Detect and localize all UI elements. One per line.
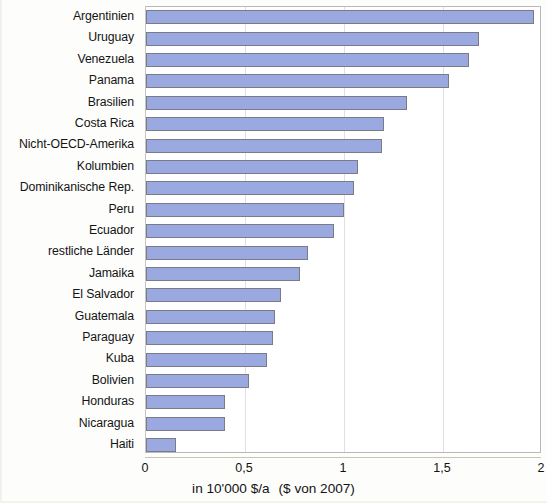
bar-row	[146, 307, 542, 328]
category-axis-labels: ArgentinienUruguayVenezuelaPanamaBrasili…	[0, 6, 140, 453]
bar	[146, 353, 267, 367]
category-label: Guatemala	[75, 306, 134, 327]
category-label: Kolumbien	[77, 156, 134, 177]
bar	[146, 160, 358, 174]
bar	[146, 395, 225, 409]
bar-row	[146, 221, 542, 242]
bar-row	[146, 135, 542, 156]
x-tick-label: 1,5	[433, 461, 450, 475]
category-label: Jamaika	[89, 263, 134, 284]
bar	[146, 53, 469, 67]
bar	[146, 32, 479, 46]
category-label: El Salvador	[72, 284, 134, 305]
bar-row	[146, 178, 542, 199]
bar	[146, 10, 534, 24]
category-label: Peru	[108, 199, 134, 220]
bar-row	[146, 285, 542, 306]
bar-row	[146, 435, 542, 456]
bar-row	[146, 200, 542, 221]
category-label: Bolivien	[92, 370, 134, 391]
bar	[146, 203, 344, 217]
plot-area	[145, 6, 541, 453]
category-label: Nicht-OECD-Amerika	[19, 134, 134, 155]
category-label: Costa Rica	[75, 113, 134, 134]
bar	[146, 224, 334, 238]
bar	[146, 310, 275, 324]
bar	[146, 331, 273, 345]
bar-row	[146, 50, 542, 71]
category-label: Argentinien	[73, 6, 134, 27]
bar	[146, 139, 382, 153]
category-label: Nicaragua	[79, 413, 134, 434]
bar	[146, 181, 354, 195]
category-label: restliche Länder	[48, 241, 134, 262]
category-label: Honduras	[81, 391, 134, 412]
x-tick-label: 0	[142, 461, 149, 475]
x-axis-line	[145, 457, 541, 458]
bar	[146, 74, 449, 88]
bar-chart: ArgentinienUruguayVenezuelaPanamaBrasili…	[0, 0, 547, 503]
bar	[146, 438, 176, 452]
category-label: Paraguay	[82, 327, 134, 348]
category-label: Brasilien	[88, 92, 134, 113]
bar-row	[146, 157, 542, 178]
bar-row	[146, 7, 542, 28]
category-label: Kuba	[106, 348, 134, 369]
scan-edge-left	[0, 0, 2, 503]
category-label: Panama	[89, 70, 134, 91]
category-label: Dominikanische Rep.	[20, 177, 134, 198]
category-label: Uruguay	[88, 27, 134, 48]
bar-row	[146, 71, 542, 92]
bar-row	[146, 328, 542, 349]
bar-row	[146, 242, 542, 263]
category-label: Venezuela	[77, 49, 134, 70]
bar	[146, 117, 384, 131]
x-axis-title-main: in 10'000 $/a	[192, 481, 269, 496]
bar-row	[146, 392, 542, 413]
x-tick-label: 2	[538, 461, 545, 475]
bar	[146, 267, 300, 281]
bar-row	[146, 414, 542, 435]
bar	[146, 374, 249, 388]
bar	[146, 288, 281, 302]
bar-row	[146, 349, 542, 370]
bar-row	[146, 114, 542, 135]
bar-row	[146, 93, 542, 114]
bar-row	[146, 28, 542, 49]
x-tick-label: 0,5	[235, 461, 252, 475]
bar	[146, 246, 308, 260]
x-axis-title: in 10'000 $/a($ von 2007)	[0, 481, 547, 496]
bar-row	[146, 371, 542, 392]
bar	[146, 417, 225, 431]
x-tick-label: 1	[340, 461, 347, 475]
bar-row	[146, 264, 542, 285]
category-label: Haiti	[110, 434, 134, 455]
bar	[146, 96, 407, 110]
category-label: Ecuador	[89, 220, 134, 241]
x-axis-title-parenthetical: ($ von 2007)	[279, 481, 355, 496]
